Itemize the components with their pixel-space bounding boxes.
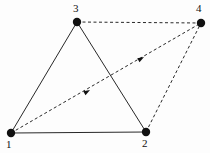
node-label-4: 4 <box>196 3 202 14</box>
arrowhead-icon-upper <box>137 55 145 62</box>
node-dot-3 <box>73 18 81 26</box>
node-dot-2 <box>142 128 150 136</box>
graph-figure: 1 2 3 4 <box>0 0 210 153</box>
node-dot-1 <box>7 129 15 137</box>
edge-layer <box>11 22 201 133</box>
edge-3-4 <box>77 22 201 23</box>
graph-canvas <box>0 0 210 153</box>
node-label-2: 2 <box>142 138 148 149</box>
edge-1-2 <box>11 132 146 133</box>
edge-3-2 <box>77 22 146 132</box>
edge-1-3 <box>11 22 77 133</box>
node-label-1: 1 <box>6 139 12 150</box>
arrowhead-icon-lower <box>83 88 91 95</box>
node-dot-4 <box>197 19 205 27</box>
edge-1-4 <box>11 23 201 133</box>
node-label-3: 3 <box>73 3 79 14</box>
